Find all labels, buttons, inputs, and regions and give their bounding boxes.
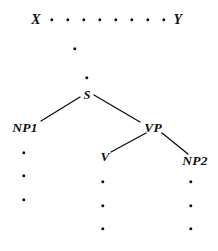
tree-edge-s-vp (94, 95, 140, 122)
tree-edge-vp-np2 (162, 133, 188, 154)
spine-dot-1 (73, 47, 76, 50)
np1-column-dot-1 (22, 151, 25, 154)
np2-column-dot-1 (189, 180, 192, 183)
tree-edge-vp-v (111, 133, 146, 152)
tree-node-x: X (31, 13, 41, 27)
np1-column-dot-3 (22, 198, 25, 201)
np1-column-dot-2 (22, 174, 25, 177)
tree-node-np2: NP2 (182, 154, 207, 168)
spine-dot-2 (85, 76, 88, 79)
top-row-dot-7 (146, 18, 149, 21)
top-row-dot-6 (130, 18, 133, 21)
top-row-dot-4 (98, 18, 101, 21)
np2-column-dot-2 (189, 204, 192, 207)
top-row-dot-5 (114, 18, 117, 21)
tree-node-y: Y (174, 13, 183, 27)
top-row-dot-8 (162, 18, 165, 21)
tree-node-v: V (100, 150, 109, 164)
tree-node-vp: VP (144, 121, 162, 135)
top-row-dot-3 (82, 18, 85, 21)
tree-node-s: S (83, 89, 90, 102)
np2-column-dot-3 (189, 227, 192, 230)
tree-node-np1: NP1 (12, 121, 37, 135)
v-column-dot-1 (101, 180, 104, 183)
tree-edge-s-np1 (41, 97, 80, 121)
top-row-dot-2 (66, 18, 69, 21)
v-column-dot-2 (101, 204, 104, 207)
v-column-dot-3 (101, 227, 104, 230)
top-row-dot-1 (50, 18, 53, 21)
syntax-tree-figure: XYSNP1VPVNP2 (0, 0, 218, 251)
